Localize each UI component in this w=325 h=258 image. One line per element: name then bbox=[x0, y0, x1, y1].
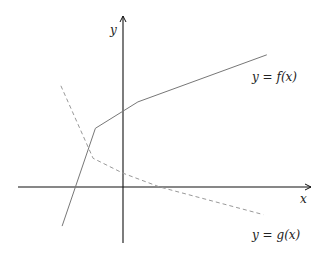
curve-g-label: y = g(x) bbox=[251, 228, 301, 242]
curve-f bbox=[62, 55, 267, 226]
curves-group bbox=[61, 55, 267, 226]
curve-g bbox=[61, 86, 263, 215]
y-axis-label: y bbox=[109, 23, 117, 37]
x-axis-label: x bbox=[300, 192, 307, 206]
function-plot: y x y = f(x) y = g(x) bbox=[0, 0, 325, 258]
curve-f-label: y = f(x) bbox=[251, 70, 297, 84]
